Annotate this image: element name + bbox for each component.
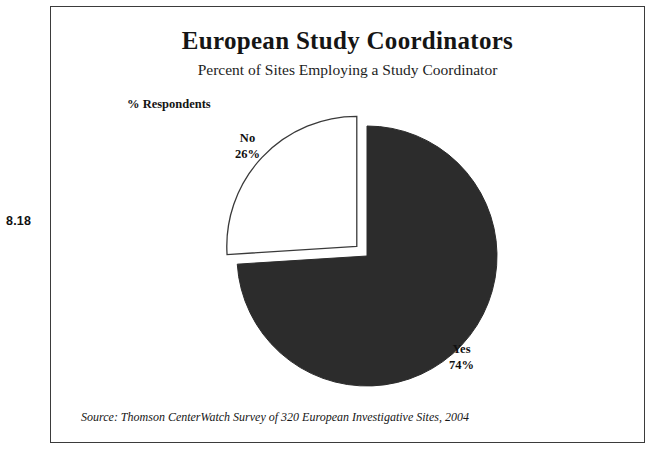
pie-label-no: No 26% [235,131,260,162]
pie-label-no-name: No [235,131,260,147]
chart-frame: European Study Coordinators Percent of S… [50,6,645,443]
pie-label-yes-name: Yes [449,342,474,358]
pie-label-yes-value: 74% [449,358,474,374]
figure-number: 8.18 [6,214,31,228]
pie-label-yes: Yes 74% [449,342,474,373]
source-note: Source: Thomson CenterWatch Survey of 32… [81,410,469,425]
pie-chart-svg [51,7,646,444]
pie-chart: No 26% Yes 74% [51,7,646,444]
pie-label-no-value: 26% [235,147,260,163]
